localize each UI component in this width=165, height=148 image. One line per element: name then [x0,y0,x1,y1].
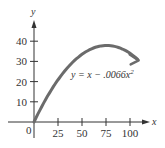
y-axis-label: y [30,6,36,17]
y-axis-arrow-icon [32,20,37,28]
y-tick-label: 10 [16,96,28,108]
x-ticks: 255075100 [53,118,139,139]
equation-text: y = x − .0066x [70,69,131,80]
x-axis-arrow-icon [142,120,150,125]
y-tick-label: 20 [16,76,28,88]
origin-label: 0 [26,124,32,136]
x-tick-label: 100 [122,127,139,139]
x-tick-label: 25 [53,127,65,139]
y-ticks: 10203040 [16,35,38,108]
x-axis-label: x [151,116,157,127]
chart: x y 0 255075100 10203040 y = x − .0066x2 [0,0,165,148]
equation-exponent: 2 [130,68,134,76]
y-tick-label: 40 [16,35,28,47]
x-tick-label: 50 [77,127,89,139]
equation-label: y = x − .0066x2 [70,68,134,80]
y-tick-label: 30 [16,55,28,67]
x-tick-label: 75 [101,127,113,139]
curve-series [34,46,138,123]
curve-arrow-icon [130,54,139,64]
